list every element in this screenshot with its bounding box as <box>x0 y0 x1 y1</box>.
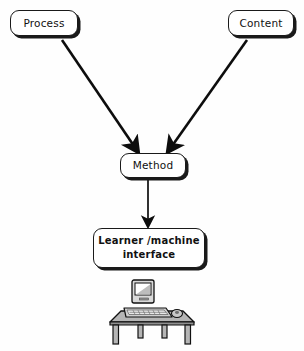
node-learner-machine-interface-label: Learner /machine interface <box>98 234 200 263</box>
node-method-label: Method <box>133 159 174 171</box>
node-content-label: Content <box>239 17 282 29</box>
keyboard-icon <box>124 308 172 317</box>
computer-on-desk-icon <box>108 278 196 348</box>
edge-content-to-method <box>172 40 247 146</box>
node-process-label: Process <box>23 17 64 29</box>
edge-process-to-method <box>62 40 134 146</box>
mouse-icon <box>172 310 183 318</box>
diagram-canvas: Process Content Method Learner /machine … <box>0 0 304 351</box>
node-process[interactable]: Process <box>10 10 78 36</box>
node-method[interactable]: Method <box>120 153 186 178</box>
node-learner-machine-interface[interactable]: Learner /machine interface <box>93 228 205 268</box>
node-content[interactable]: Content <box>228 10 294 36</box>
monitor-icon <box>132 280 154 303</box>
